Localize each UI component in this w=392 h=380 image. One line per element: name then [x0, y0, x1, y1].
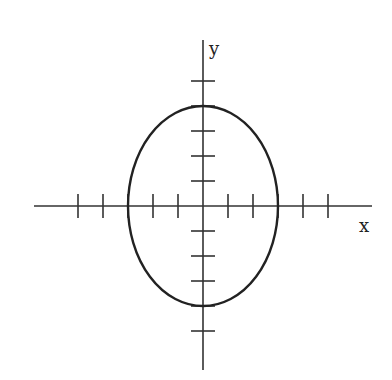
- y-axis-label: y: [208, 38, 220, 59]
- x-axis-label: x: [359, 215, 369, 236]
- ellipse-diagram: x y: [0, 0, 392, 380]
